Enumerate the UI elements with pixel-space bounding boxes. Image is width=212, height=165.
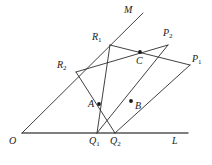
point-label-p1: P1 [192,54,202,66]
segment-R2-Q2 [76,72,115,133]
vertex-dot-b [129,99,133,103]
point-label-p1-subscript: 1 [198,58,202,66]
point-label-b-text: B [135,100,141,111]
point-label-q1-subscript: 1 [96,140,100,148]
point-label-q1: Q1 [89,136,100,148]
point-label-r1-subscript: 1 [98,36,102,44]
point-label-p2: P2 [163,28,173,40]
point-label-m-text: M [124,4,132,15]
point-label-c: C [136,56,143,66]
point-label-r1: R1 [92,32,102,44]
point-label-a: A [88,99,94,109]
point-label-o: O [9,136,16,146]
point-label-c-text: C [136,55,143,66]
point-label-l: L [172,136,178,146]
point-label-a-text: A [88,98,94,109]
point-label-q2-subscript: 2 [117,140,121,148]
segment-R1-P1 [110,45,190,65]
point-label-m: M [124,5,132,15]
vertex-dot-a [97,102,101,106]
segment-P1-Q2 [115,65,190,133]
point-label-r2: R2 [57,60,67,72]
ray-OM [22,13,143,133]
vertex-dot-c [138,50,142,54]
point-label-r2-subscript: 2 [63,64,67,72]
point-label-o-text: O [9,135,16,146]
point-label-l-text: L [172,135,178,146]
point-label-q2: Q2 [110,136,121,148]
figure-canvas [0,0,212,165]
point-label-p2-subscript: 2 [169,32,173,40]
point-label-b: B [135,101,141,111]
segment-R2-P2 [76,45,168,72]
geometry-figure: OLMR1R2P1P2Q1Q2ABC [0,0,212,165]
